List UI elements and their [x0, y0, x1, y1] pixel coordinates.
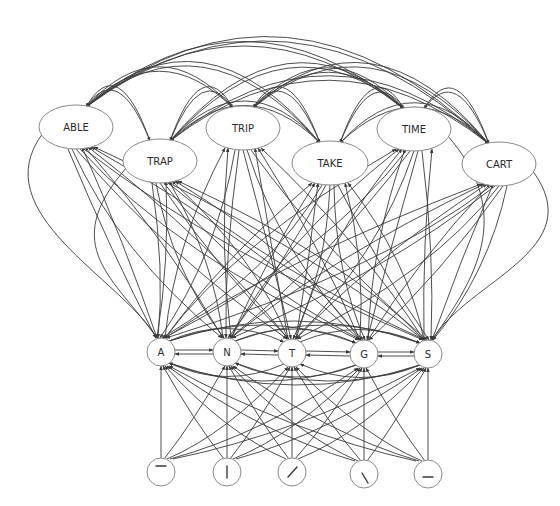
- feature-node-vertical: [213, 458, 241, 486]
- connection-edge: [366, 368, 425, 461]
- word-node-label: ABLE: [63, 122, 89, 133]
- letter-layer: ANTGS: [147, 338, 442, 368]
- word-node-label: CART: [486, 159, 513, 170]
- letter-node-s: S: [414, 340, 442, 368]
- word-node-label: TAKE: [316, 158, 342, 169]
- connection-edge: [169, 366, 416, 461]
- connection-edge: [86, 67, 233, 108]
- letter-node-label: N: [223, 347, 230, 358]
- feature-node-circle: [147, 458, 175, 486]
- feature-node-diagonal-right: [278, 458, 306, 486]
- feature-node-diagonal-left: [350, 460, 378, 488]
- letter-node-t: T: [278, 339, 306, 367]
- letter-node-g: G: [350, 340, 378, 368]
- feature-node-horizontal-top: [147, 458, 175, 486]
- letter-node-a: A: [147, 338, 175, 366]
- connection-edge: [368, 184, 490, 340]
- connection-edge: [241, 350, 278, 351]
- connection-edge: [163, 366, 224, 459]
- connection-edge: [298, 368, 424, 459]
- word-node-trap: TRAP: [123, 139, 197, 183]
- word-node-label: TRAP: [146, 156, 173, 167]
- connection-edges: [28, 37, 548, 461]
- connection-edge: [233, 368, 360, 459]
- word-node-take: TAKE: [292, 141, 368, 185]
- letter-node-label: S: [425, 349, 431, 360]
- connection-edge: [241, 354, 278, 355]
- connection-edge: [433, 186, 507, 340]
- feature-node-circle: [350, 460, 378, 488]
- connection-edge: [235, 363, 420, 381]
- connection-edge: [253, 68, 404, 109]
- letter-node-label: G: [360, 349, 368, 360]
- word-node-able: ABLE: [39, 105, 113, 149]
- connection-edge: [255, 148, 288, 339]
- word-node-cart: CART: [462, 142, 536, 186]
- connection-edge: [306, 355, 350, 356]
- connection-edge: [152, 183, 160, 338]
- word-node-time: TIME: [377, 107, 451, 151]
- connection-edge: [432, 184, 493, 340]
- connection-edge: [170, 63, 404, 141]
- connection-edge: [168, 183, 425, 340]
- feature-node-horizontal-bottom: [414, 460, 442, 488]
- connection-edge: [165, 366, 286, 459]
- connection-edge: [296, 184, 487, 339]
- feature-layer: [147, 458, 442, 488]
- connection-edge: [86, 61, 320, 143]
- connection-edge: [253, 62, 489, 144]
- feature-node-circle: [414, 460, 442, 488]
- connection-edge: [253, 67, 489, 144]
- connection-edge: [170, 67, 404, 141]
- letter-node-label: A: [158, 347, 165, 358]
- connection-edge: [367, 368, 426, 461]
- connection-edge: [306, 351, 350, 352]
- network-diagram: ABLETRAPTRIPTAKETIMECART ANTGS: [0, 0, 560, 506]
- letter-node-n: N: [213, 338, 241, 366]
- connection-edge: [295, 368, 362, 459]
- diagram-canvas: ABLETRAPTRIPTAKETIMECART ANTGS: [0, 0, 560, 506]
- word-node-label: TIME: [401, 124, 426, 135]
- word-node-trip: TRIP: [206, 106, 280, 150]
- connection-edge: [173, 368, 420, 459]
- word-node-label: TRIP: [231, 123, 254, 134]
- letter-node-label: T: [288, 348, 296, 359]
